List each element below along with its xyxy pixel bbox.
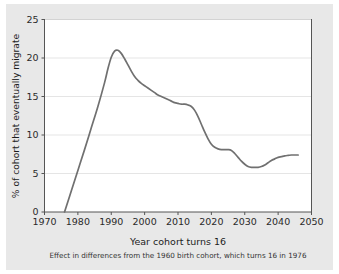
x-tick-label: 2050 [299,216,323,227]
x-tick-label: 2040 [266,216,290,227]
x-axis-title: Year cohort turns 16 [129,236,226,247]
y-tick-label: 20 [26,52,38,63]
x-tick-label: 2010 [166,216,190,227]
line-chart: 0510152025 19701980199020002010202020302… [0,0,339,274]
y-tick-label: 15 [26,91,38,102]
y-axis-title: % of cohort that eventually migrate [10,33,21,198]
y-axis-tick-labels: 0510152025 [26,14,38,218]
x-tick-label: 1990 [99,216,123,227]
y-tick-label: 10 [26,129,38,140]
x-tick-label: 2000 [133,216,157,227]
x-tick-label: 1970 [32,216,56,227]
x-tick-label: 1980 [66,216,90,227]
x-tick-label: 2020 [199,216,223,227]
y-tick-label: 25 [26,14,38,25]
x-tick-label: 2030 [233,216,257,227]
plot-area [45,20,312,213]
x-axis-tick-labels: 197019801990200020102020203020402050 [32,216,323,227]
chart-subtitle: Effect in differences from the 1960 birt… [50,251,307,260]
y-tick-label: 5 [32,168,38,179]
